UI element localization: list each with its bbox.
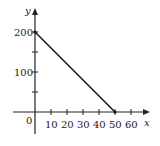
y-axis-label: y <box>24 5 31 16</box>
data-point-start <box>34 31 37 34</box>
x-tick-label-40: 40 <box>93 119 106 130</box>
y-axis-arrow-icon <box>32 8 38 15</box>
x-tick-label-50: 50 <box>109 119 122 130</box>
x-tick-label-10: 10 <box>45 119 58 130</box>
data-line <box>35 32 115 112</box>
x-tick-label-30: 30 <box>77 119 90 130</box>
chart: 0 10 20 30 40 50 60 100 200 x y <box>0 0 160 146</box>
x-axis-label: x <box>144 117 150 128</box>
x-tick-label-20: 20 <box>61 119 74 130</box>
y-tick-label-200: 200 <box>14 27 33 38</box>
origin-label: 0 <box>26 115 32 126</box>
x-tick-label-60: 60 <box>125 119 138 130</box>
data-point-end <box>114 111 117 114</box>
y-tick-label-100: 100 <box>14 67 33 78</box>
x-axis-arrow-icon <box>143 109 150 115</box>
